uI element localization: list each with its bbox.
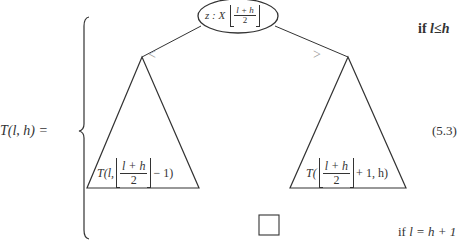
case-condition-1: if l≤h: [418, 22, 449, 36]
equation-number: (5.3): [432, 124, 457, 137]
right-edge: [275, 26, 348, 57]
left-suffix: − 1): [153, 167, 173, 179]
case-2-prefix: if: [398, 224, 409, 239]
root-floor: l + h 2: [230, 6, 260, 26]
left-numerator: l + h: [120, 160, 147, 174]
right-edge-label: >: [313, 48, 321, 62]
lhs-text: T(l, h) =: [0, 123, 48, 138]
left-subtree-label: T(l, l + h 2 − 1): [97, 160, 173, 186]
right-fraction: l + h 2: [323, 160, 350, 186]
empty-tree-square: [259, 215, 279, 235]
left-brace: [79, 17, 89, 239]
root-fraction: l + h 2: [234, 6, 256, 26]
root-prefix: z : X: [205, 10, 225, 21]
root-denominator: 2: [241, 16, 250, 25]
left-prefix: T(l,: [97, 167, 114, 179]
case-1-prefix: if: [418, 21, 430, 36]
right-suffix: + 1, h): [356, 167, 388, 179]
case-condition-2: if l = h + 1: [398, 225, 456, 238]
right-floor: l + h 2: [319, 160, 354, 186]
left-floor: l + h 2: [116, 160, 151, 186]
left-denominator: 2: [129, 174, 139, 187]
right-prefix: T(: [306, 167, 317, 179]
left-fraction: l + h 2: [120, 160, 147, 186]
equation-lhs: T(l, h) =: [0, 124, 48, 138]
case-1-math: l≤h: [430, 21, 449, 36]
right-subtree-label: T( l + h 2 + 1, h): [306, 160, 388, 186]
right-numerator: l + h: [323, 160, 350, 174]
root-node-label: z : X l + h 2: [205, 6, 262, 26]
right-denominator: 2: [331, 174, 341, 187]
case-2-math: l = h + 1: [409, 224, 456, 239]
diagram-canvas: [0, 0, 469, 246]
left-edge-label: <: [148, 48, 156, 62]
